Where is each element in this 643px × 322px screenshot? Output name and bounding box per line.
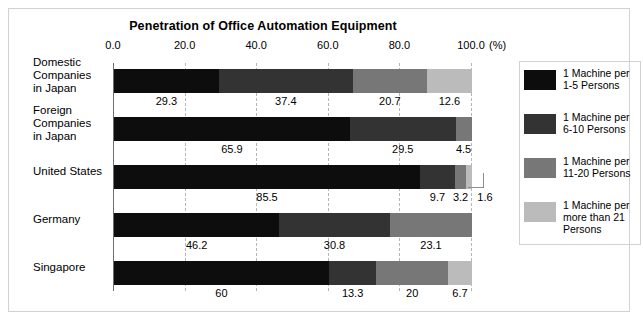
bar-value-label: 20.7	[379, 95, 400, 107]
category-label: United States	[33, 165, 117, 178]
legend-label-line: 1 Machine per	[563, 199, 643, 211]
x-axis-unit-label: (%)	[489, 39, 506, 51]
bar-value-label: 1.6	[477, 191, 492, 203]
bar-value-label: 85.5	[256, 191, 277, 203]
bar-value-label: 30.8	[324, 239, 345, 251]
category-label-line: in Japan	[33, 130, 117, 143]
bar-value-label: 9.7	[430, 191, 445, 203]
category-label: Singapore	[33, 261, 117, 274]
stacked-bar[interactable]	[114, 165, 472, 189]
bar-segment[interactable]	[420, 165, 455, 189]
x-tick-label: 60.0	[317, 39, 338, 51]
legend-swatch	[523, 113, 557, 135]
bar-segment[interactable]	[114, 213, 279, 237]
bar-segment[interactable]	[390, 213, 473, 237]
category-label-line: in Japan	[33, 82, 117, 95]
category-label-line: Foreign	[33, 104, 117, 117]
bar-row: 6013.3206.7	[113, 255, 471, 303]
stacked-bar[interactable]	[114, 69, 472, 93]
bar-value-label: 37.4	[275, 95, 296, 107]
x-tick-label: 40.0	[245, 39, 266, 51]
bar-segment[interactable]	[279, 213, 389, 237]
bar-row: 46.230.823.1	[113, 207, 471, 255]
bar-segment[interactable]	[376, 261, 448, 285]
leader-line	[468, 173, 484, 188]
category-label-line: United States	[33, 165, 117, 178]
bar-segment[interactable]	[329, 261, 377, 285]
category-label: Germany	[33, 213, 117, 226]
legend-item[interactable]: 1 Machine per11-20 Persons	[523, 157, 643, 201]
legend: 1 Machine per1-5 Persons1 Machine per6-1…	[523, 69, 643, 245]
bar-segment[interactable]	[114, 117, 350, 141]
bar-segment[interactable]	[114, 261, 329, 285]
legend-label-line: 1 Machine per	[563, 111, 643, 123]
x-tick-label: 80.0	[389, 39, 410, 51]
legend-label-line: 1 Machine per	[563, 67, 643, 79]
legend-label-line: 6-10 Persons	[563, 123, 643, 135]
category-label-line: Companies	[33, 69, 117, 82]
legend-label: 1 Machine per6-10 Persons	[563, 111, 643, 135]
legend-swatch	[523, 201, 557, 223]
chart-title: Penetration of Office Automation Equipme…	[9, 19, 517, 33]
category-label-line: Domestic	[33, 56, 117, 69]
legend-swatch	[523, 157, 557, 179]
stacked-bar[interactable]	[114, 213, 472, 237]
x-tick-label: 20.0	[174, 39, 195, 51]
legend-label-line: Persons	[563, 223, 643, 235]
legend-label-line: more than 21	[563, 211, 643, 223]
bar-row: 65.929.54.5	[113, 111, 471, 159]
bar-value-label: 65.9	[221, 143, 242, 155]
bar-segment[interactable]	[456, 117, 472, 141]
category-label-line: Singapore	[33, 261, 117, 274]
bar-segment[interactable]	[350, 117, 456, 141]
x-tick-label: 100.0	[457, 39, 485, 51]
bar-row: 29.337.420.712.6	[113, 63, 471, 111]
category-label: DomesticCompaniesin Japan	[33, 56, 117, 95]
stacked-bar[interactable]	[114, 261, 472, 285]
bar-segment[interactable]	[114, 165, 420, 189]
legend-label: 1 Machine per11-20 Persons	[563, 155, 643, 179]
legend-item[interactable]: 1 Machine permore than 21Persons	[523, 201, 643, 245]
bar-segment[interactable]	[455, 165, 466, 189]
legend-label: 1 Machine permore than 21Persons	[563, 199, 643, 235]
legend-label-line: 1-5 Persons	[563, 79, 643, 91]
bar-row: 85.59.73.21.6	[113, 159, 471, 207]
bar-value-label: 3.2	[453, 191, 468, 203]
legend-label: 1 Machine per1-5 Persons	[563, 67, 643, 91]
legend-item[interactable]: 1 Machine per1-5 Persons	[523, 69, 643, 113]
legend-label-line: 1 Machine per	[563, 155, 643, 167]
bar-segment[interactable]	[353, 69, 427, 93]
stacked-bar[interactable]	[114, 117, 472, 141]
bar-value-label: 46.2	[186, 239, 207, 251]
bar-segment[interactable]	[427, 69, 472, 93]
bar-segment[interactable]	[448, 261, 472, 285]
bar-value-label: 20	[406, 287, 418, 299]
bar-value-label: 6.7	[452, 287, 467, 299]
bar-value-label: 29.3	[156, 95, 177, 107]
category-label-line: Companies	[33, 117, 117, 130]
bar-value-label: 29.5	[392, 143, 413, 155]
category-label: ForeignCompaniesin Japan	[33, 104, 117, 143]
x-tick-label: 0.0	[105, 39, 120, 51]
bar-value-label: 4.5	[456, 143, 471, 155]
category-label-line: Germany	[33, 213, 117, 226]
bar-segment[interactable]	[219, 69, 353, 93]
bar-value-label: 23.1	[420, 239, 441, 251]
plot-area: 0.020.040.060.080.0100.0(%) 29.337.420.7…	[113, 39, 481, 291]
chart-frame: Penetration of Office Automation Equipme…	[8, 8, 630, 312]
bar-value-label: 13.3	[342, 287, 363, 299]
legend-swatch	[523, 69, 557, 91]
legend-label-line: 11-20 Persons	[563, 167, 643, 179]
bar-value-label: 12.6	[439, 95, 460, 107]
legend-item[interactable]: 1 Machine per6-10 Persons	[523, 113, 643, 157]
bar-segment[interactable]	[114, 69, 219, 93]
bar-value-label: 60	[215, 287, 227, 299]
